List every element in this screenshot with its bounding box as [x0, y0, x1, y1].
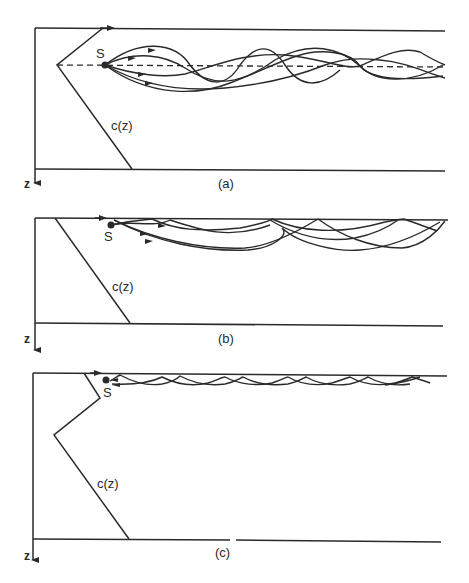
panel-label: (a) [218, 176, 234, 191]
source-label: S [96, 46, 105, 61]
panel-label: (c) [215, 545, 230, 560]
panel-label: (b) [218, 331, 234, 346]
profile-label: c(z) [97, 476, 119, 491]
sound-speed-profile [57, 28, 132, 169]
sound-speed-profile [54, 373, 129, 539]
panel-b: S c(z) z (b) [24, 218, 448, 350]
panel-c: S c(z) z (c) [24, 373, 447, 563]
bottom-line [33, 539, 230, 540]
profile-label: c(z) [112, 279, 134, 294]
ray-path [105, 52, 443, 92]
source-point [103, 377, 110, 384]
source-label: S [103, 385, 112, 400]
ray-diagram-figure: S c(z) z (a) S c(z) z (b) [0, 0, 469, 583]
axis-label: z [24, 332, 30, 346]
ray-path [105, 46, 340, 83]
bottom-line [236, 540, 441, 542]
surface-line [35, 28, 445, 31]
arrow-icon [148, 48, 156, 53]
arrow-icon [145, 239, 153, 244]
source-label: S [104, 229, 113, 244]
profile-label: c(z) [111, 118, 133, 133]
axis-label: z [24, 177, 30, 191]
sound-speed-profile [55, 218, 130, 323]
bottom-line [35, 169, 445, 171]
panel-a: S c(z) z (a) [24, 28, 445, 191]
axis-label: z [24, 549, 30, 563]
ray-path [105, 59, 445, 89]
bottom-line [35, 323, 443, 326]
channel-axis [57, 65, 445, 67]
ray-path [105, 50, 445, 76]
